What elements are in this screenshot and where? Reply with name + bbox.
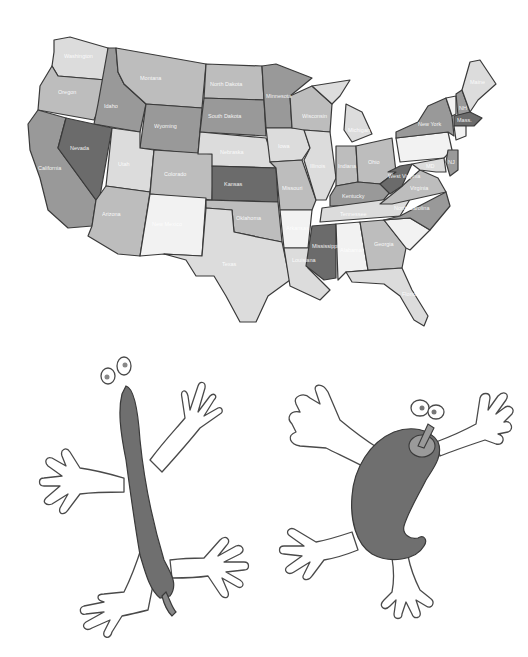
- leg-right: [170, 538, 249, 598]
- arm-right-point: [436, 393, 513, 456]
- label-iowa: Iowa: [278, 143, 291, 149]
- label-oklahoma: Oklahoma: [236, 215, 262, 221]
- label-alabama: Alabama: [340, 247, 363, 253]
- state-wyoming: [140, 104, 202, 154]
- label-ohio: Ohio: [368, 159, 380, 165]
- label-florida: Florida: [402, 291, 420, 297]
- label-north-carolina: North Carolina: [394, 205, 430, 211]
- label-idaho: Idaho: [104, 103, 118, 109]
- label-wisconsin: Wisconsin: [302, 113, 327, 119]
- state-kansas: [212, 166, 278, 202]
- label-illinois: Illinois: [310, 163, 326, 169]
- pepper-body: [120, 386, 174, 598]
- label-missouri: Missouri: [282, 185, 302, 191]
- label-maryland: MD: [426, 163, 435, 169]
- label-louisiana: Louisiana: [292, 257, 316, 263]
- arm-left: [40, 449, 125, 514]
- label-west-virginia: West Virginia: [388, 173, 421, 179]
- label-minnesota: Minnesota: [266, 93, 292, 99]
- label-arizona: Arizona: [102, 211, 122, 217]
- leg-right: [382, 556, 433, 619]
- arm-right-up: [150, 382, 222, 472]
- label-utah: Utah: [118, 161, 130, 167]
- eyes-icon: [101, 357, 131, 384]
- label-maine: Maine: [470, 79, 485, 85]
- label-new-mexico: New Mexico: [152, 221, 182, 227]
- us-map: Washington Oregon California Idaho Nevad…: [28, 37, 496, 326]
- label-wyoming: Wyoming: [154, 123, 177, 129]
- label-nevada: Nevada: [70, 145, 90, 151]
- state-maine: [462, 60, 496, 112]
- label-colorado: Colorado: [164, 171, 186, 177]
- label-north-dakota: North Dakota: [210, 81, 243, 87]
- label-texas: Texas: [222, 261, 237, 267]
- eyes-icon: [411, 400, 444, 419]
- label-georgia: Georgia: [374, 241, 395, 247]
- label-oregon: Oregon: [58, 89, 76, 95]
- label-washington: Washington: [64, 53, 93, 59]
- label-kentucky: Kentucky: [342, 193, 365, 199]
- label-kansas: Kansas: [224, 181, 243, 187]
- bell-pepper-character: [280, 385, 514, 618]
- label-mississippi: Mississippi: [312, 243, 339, 249]
- label-indiana: Indiana: [338, 163, 357, 169]
- label-new-york: New York: [418, 121, 441, 127]
- leg-left: [280, 529, 359, 580]
- label-arkansas: Arkansas: [286, 225, 309, 231]
- long-chili-pepper-character: [40, 357, 249, 637]
- label-montana: Montana: [140, 75, 162, 81]
- label-tennessee: Tennessee: [340, 211, 367, 217]
- label-california: California: [38, 165, 62, 171]
- label-massachusetts: Mass.: [457, 117, 472, 123]
- label-new-jersey: NJ: [448, 159, 455, 165]
- label-virginia: Virginia: [410, 185, 429, 191]
- label-nebraska: Nebraska: [220, 149, 244, 155]
- state-florida: [346, 268, 428, 326]
- illustration: Washington Oregon California Idaho Nevad…: [0, 0, 528, 657]
- label-new-hampshire: NH: [459, 105, 467, 111]
- label-south-dakota: South Dakota: [208, 113, 242, 119]
- label-michigan: Michigan: [348, 127, 370, 133]
- state-connecticut: [454, 126, 466, 140]
- state-new-york: [396, 98, 454, 138]
